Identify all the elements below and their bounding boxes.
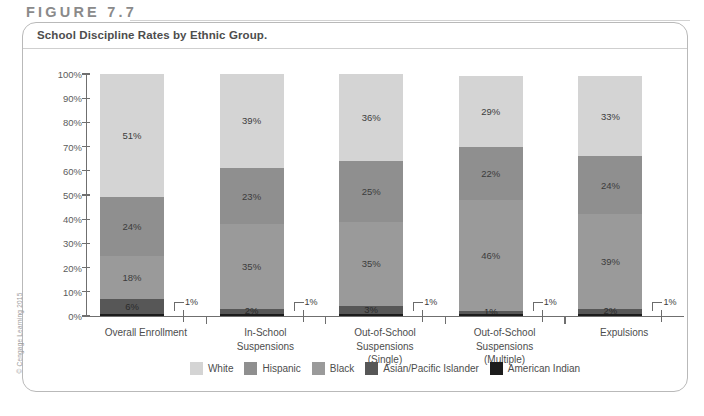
bar-segment-value-label: 25%	[362, 187, 381, 197]
y-axis-tick-label: 20%	[38, 262, 82, 273]
bar-stack: 33%24%39%2%	[578, 76, 642, 316]
legend-color-swatch	[312, 362, 325, 375]
bar-segment[interactable]: 39%	[578, 214, 642, 308]
bar-segment[interactable]	[339, 314, 403, 316]
bar-segment[interactable]: 24%	[100, 197, 164, 255]
x-axis-category-label: Out-of-SchoolSuspensions(Multiple)	[445, 326, 565, 367]
bar-segment[interactable]: 3%	[339, 306, 403, 313]
legend-color-swatch	[190, 362, 203, 375]
callout-leader-line	[183, 310, 184, 322]
bar-stack-column[interactable]: 39%23%35%2%	[220, 74, 284, 316]
bar-segment[interactable]: 22%	[459, 147, 523, 200]
y-axis-tick-label: 80%	[38, 117, 82, 128]
bar-stack: 51%24%18%6%	[100, 74, 164, 316]
bar-segment-value-label: 33%	[601, 112, 620, 122]
bar-segment[interactable]: 36%	[339, 74, 403, 161]
bar-segment[interactable]: 29%	[459, 76, 523, 146]
callout-leader-line	[542, 310, 543, 322]
callout-leader-line	[303, 310, 304, 322]
y-axis-tick-label: 30%	[38, 238, 82, 249]
y-axis-tick-mark	[82, 219, 90, 220]
y-axis-tick-mark	[82, 291, 90, 292]
y-axis-tick-mark	[82, 98, 90, 99]
legend-label: Black	[330, 363, 354, 374]
x-axis-category-label: Overall Enrollment	[86, 326, 206, 340]
x-axis-category-label: In-SchoolSuspensions	[206, 326, 326, 353]
legend-label: Asian/Pacific Islander	[383, 363, 479, 374]
bar-segment-value-label: 24%	[122, 222, 141, 232]
y-axis-tick-label: 50%	[38, 190, 82, 201]
bar-stack: 39%23%35%2%	[220, 74, 284, 316]
callout-value-label: 1%	[185, 297, 198, 307]
bar-stack-column[interactable]: 51%24%18%6%	[100, 74, 164, 316]
bar-segment-value-label: 36%	[362, 113, 381, 123]
bar-segment-value-label: 24%	[601, 181, 620, 191]
y-axis-tick-mark	[82, 194, 90, 195]
y-axis-tick-mark	[82, 146, 90, 147]
legend-item[interactable]: Asian/Pacific Islander	[365, 362, 479, 375]
bar-segment-value-label: 6%	[125, 302, 139, 312]
y-axis-tick-label: 10%	[38, 286, 82, 297]
bar-segment-value-label: 29%	[481, 107, 500, 117]
bar-segment-value-label: 35%	[362, 259, 381, 269]
chart-plot-area: 0%10%20%30%40%50%60%70%80%90%100% 51%24%…	[0, 0, 704, 416]
bar-stack-column[interactable]: 36%25%35%3%	[339, 74, 403, 316]
legend-label: White	[208, 363, 234, 374]
american-indian-callout: 1%	[174, 300, 216, 320]
callout-value-label: 1%	[663, 297, 676, 307]
bar-segment[interactable]: 51%	[100, 74, 164, 197]
bar-segment[interactable]	[459, 314, 523, 316]
legend-item[interactable]: White	[190, 362, 234, 375]
y-axis-tick-mark	[82, 267, 90, 268]
bar-segment-value-label: 23%	[242, 192, 261, 202]
bar-segment-value-label: 46%	[481, 251, 500, 261]
y-axis-tick-mark	[82, 170, 90, 171]
bar-segment-value-label: 51%	[122, 131, 141, 141]
y-axis-tick-label: 100%	[38, 69, 82, 80]
callout-value-label: 1%	[544, 297, 557, 307]
bar-segment-value-label: 35%	[242, 262, 261, 272]
callout-value-label: 1%	[305, 297, 318, 307]
legend-label: American Indian	[508, 363, 580, 374]
legend-item[interactable]: Black	[312, 362, 354, 375]
y-axis-tick-labels: 0%10%20%30%40%50%60%70%80%90%100%	[38, 0, 82, 416]
bar-segment[interactable]	[578, 314, 642, 316]
y-axis-tick-mark	[82, 243, 90, 244]
bar-segment[interactable]: 46%	[459, 200, 523, 311]
legend-item[interactable]: American Indian	[490, 362, 580, 375]
bar-segment[interactable]: 23%	[220, 168, 284, 224]
bar-segment[interactable]: 39%	[220, 74, 284, 168]
bar-stack-column[interactable]: 29%22%46%1%	[459, 74, 523, 316]
y-axis-tick-label: 0%	[38, 311, 82, 322]
legend-label: Hispanic	[262, 363, 300, 374]
y-axis-tick-label: 60%	[38, 165, 82, 176]
bar-segment[interactable]: 35%	[339, 222, 403, 307]
callout-value-label: 1%	[424, 297, 437, 307]
bar-stack: 36%25%35%3%	[339, 74, 403, 316]
bar-segment[interactable]: 18%	[100, 256, 164, 300]
y-axis-tick-label: 40%	[38, 214, 82, 225]
legend-item[interactable]: Hispanic	[244, 362, 300, 375]
bar-segment[interactable]: 25%	[339, 161, 403, 222]
bar-segment[interactable]: 24%	[578, 156, 642, 214]
american-indian-callout: 1%	[294, 300, 336, 320]
chart-legend: WhiteHispanicBlackAsian/Pacific Islander…	[86, 362, 684, 375]
bar-stack: 29%22%46%1%	[459, 76, 523, 316]
bar-segment-value-label: 18%	[122, 273, 141, 283]
american-indian-callout: 1%	[533, 300, 575, 320]
legend-color-swatch	[244, 362, 257, 375]
bar-segment[interactable]: 33%	[578, 76, 642, 156]
legend-color-swatch	[365, 362, 378, 375]
callout-leader-line	[661, 310, 662, 322]
legend-color-swatch	[490, 362, 503, 375]
american-indian-callout: 1%	[652, 300, 694, 320]
bar-stack-column[interactable]: 33%24%39%2%	[578, 74, 642, 316]
bar-segment[interactable]: 6%	[100, 299, 164, 314]
bar-segment[interactable]: 35%	[220, 224, 284, 309]
y-axis-tick-label: 90%	[38, 93, 82, 104]
bar-segment[interactable]	[100, 314, 164, 316]
bar-segment[interactable]	[220, 314, 284, 316]
callout-leader-line	[422, 310, 423, 322]
american-indian-callout: 1%	[413, 300, 455, 320]
x-axis-category-label: Out-of-SchoolSuspensions(Single)	[325, 326, 445, 367]
